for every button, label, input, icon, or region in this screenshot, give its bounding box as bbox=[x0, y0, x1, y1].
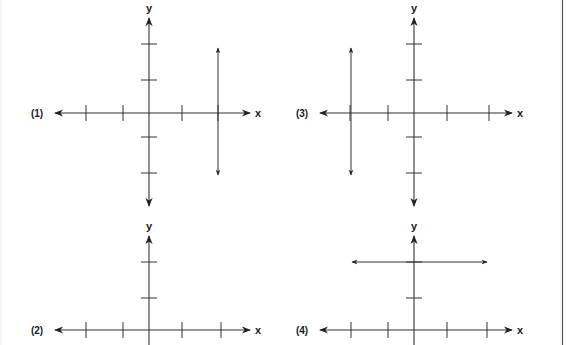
panel-label: (4) bbox=[296, 325, 308, 336]
x-axis-label: x bbox=[255, 107, 262, 119]
panel-4: (4)xy bbox=[296, 220, 524, 345]
x-axis-label: x bbox=[517, 107, 524, 119]
graph-figure: (1)xy(2)xy(3)xy(4)xy bbox=[0, 0, 569, 345]
y-axis-label: y bbox=[146, 220, 153, 232]
panel-label: (2) bbox=[31, 325, 43, 336]
panel-label: (1) bbox=[31, 108, 43, 119]
panel-1: (1)xy bbox=[31, 2, 262, 206]
panel-3: (3)xy bbox=[296, 2, 524, 206]
y-axis-label: y bbox=[411, 220, 418, 232]
y-axis-label: y bbox=[146, 2, 153, 14]
panel-2: (2)xy bbox=[31, 220, 262, 345]
x-axis-label: x bbox=[517, 324, 524, 336]
y-axis-label: y bbox=[411, 2, 418, 14]
x-axis-label: x bbox=[255, 324, 262, 336]
panel-label: (3) bbox=[296, 108, 308, 119]
